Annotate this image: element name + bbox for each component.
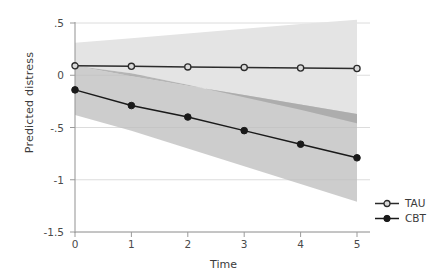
data-point-cbt-3 [241, 127, 248, 134]
chart-container: Predicted distress Time .50-.5-1-1.5 012… [0, 0, 447, 278]
data-point-tau-0 [72, 63, 78, 69]
data-point-tau-4 [298, 65, 304, 71]
y-tick-label-1: 0 [20, 69, 64, 81]
x-tick-label-2: 2 [175, 238, 201, 250]
y-tick-label-3: -1 [20, 174, 64, 186]
x-axis-title: Time [0, 258, 447, 271]
data-point-cbt-1 [128, 102, 135, 109]
y-tick-label-2: -.5 [20, 122, 64, 134]
data-point-cbt-5 [354, 155, 361, 162]
y-tick-label-4: -1.5 [20, 226, 64, 238]
x-tick-label-5: 5 [344, 238, 370, 250]
x-tick-label-1: 1 [118, 238, 144, 250]
legend-marker-filled-circle [374, 213, 400, 224]
data-point-cbt-4 [297, 141, 304, 148]
data-point-tau-5 [354, 65, 360, 71]
legend-marker-open-circle [374, 198, 400, 209]
legend-label-tau: TAU [405, 198, 425, 209]
data-point-tau-3 [241, 64, 247, 70]
x-tick-label-3: 3 [231, 238, 257, 250]
chart-legend: TAUCBT [374, 196, 426, 226]
legend-label-cbt: CBT [405, 213, 426, 224]
y-tick-label-0: .5 [20, 17, 64, 29]
data-point-tau-2 [185, 64, 191, 70]
data-point-cbt-2 [185, 114, 192, 121]
legend-item-cbt[interactable]: CBT [374, 211, 426, 226]
legend-item-tau[interactable]: TAU [374, 196, 426, 211]
y-axis-title: Predicted distress [23, 28, 36, 178]
plot-area [75, 23, 357, 232]
x-tick-label-4: 4 [288, 238, 314, 250]
x-tick-label-0: 0 [62, 238, 88, 250]
confidence-bands [75, 20, 357, 202]
data-point-cbt-0 [72, 87, 79, 94]
plot-svg [75, 23, 357, 232]
data-point-tau-1 [128, 63, 134, 69]
